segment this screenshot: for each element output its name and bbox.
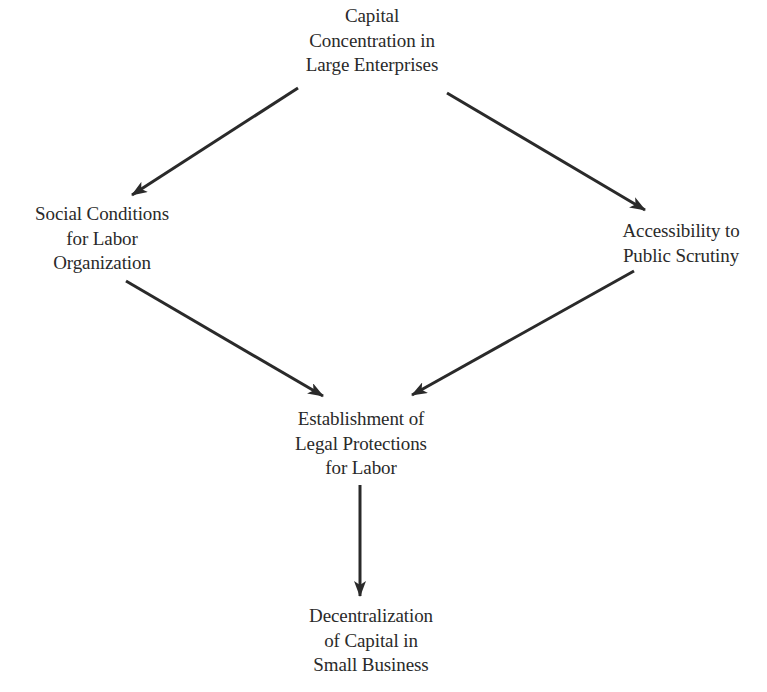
arrow-capital-to-social [132, 88, 298, 195]
node-decentralization: Decentralization of Capital in Small Bus… [309, 604, 433, 678]
node-line: Organization [35, 251, 169, 276]
node-line: Small Business [309, 653, 433, 678]
node-line: Decentralization [309, 604, 433, 629]
node-line: Concentration in [306, 29, 438, 54]
node-line: Social Conditions [35, 202, 169, 227]
arrow-social-to-legal [126, 281, 323, 396]
node-legal-protections: Establishment of Legal Protections for L… [295, 407, 427, 481]
arrows-layer [0, 0, 767, 692]
node-capital-concentration: Capital Concentration in Large Enterpris… [306, 4, 438, 78]
node-line: Large Enterprises [306, 53, 438, 78]
node-line: of Capital in [309, 629, 433, 654]
node-line: Public Scrutiny [622, 244, 739, 269]
diagram-canvas: Capital Concentration in Large Enterpris… [0, 0, 767, 692]
node-line: Accessibility to [622, 219, 739, 244]
node-line: Legal Protections [295, 432, 427, 457]
node-line: Establishment of [295, 407, 427, 432]
node-line: for Labor [295, 456, 427, 481]
arrow-scrutiny-to-legal [412, 271, 634, 395]
node-public-scrutiny: Accessibility to Public Scrutiny [622, 219, 739, 268]
node-line: for Labor [35, 227, 169, 252]
node-line: Capital [306, 4, 438, 29]
arrow-capital-to-scrutiny [447, 93, 645, 210]
node-social-conditions: Social Conditions for Labor Organization [35, 202, 169, 276]
